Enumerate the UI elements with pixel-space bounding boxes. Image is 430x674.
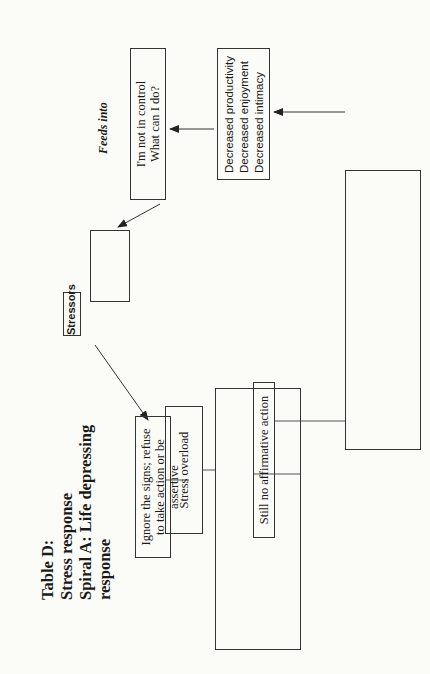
stressors-label-box: Stressors: [63, 292, 81, 336]
not-in-control-line-1: I'm not in control: [134, 49, 148, 199]
long-term-box: [345, 170, 421, 450]
stressors-label: Stressors: [65, 284, 77, 335]
ignore-signs-line-1: Ignore the signs; refuse: [139, 417, 153, 557]
rotated-diagram-canvas: Table D: Stress response Spiral A: Life …: [0, 0, 430, 674]
still-no-action-box: Still no affirmative action: [253, 382, 275, 538]
stressors-box: [90, 230, 130, 302]
still-no-action-label: Still no affirmative action: [257, 396, 271, 525]
title-line-2: Stress response: [57, 425, 76, 600]
arrow-stressors-to-ignore: [95, 345, 148, 420]
diagram-title: Table D: Stress response Spiral A: Life …: [38, 425, 114, 600]
not-in-control-box: I'm not in control What can I do?: [130, 48, 166, 200]
document-page: Table D: Stress response Spiral A: Life …: [0, 0, 430, 674]
decreased-item: Decreased productivity: [222, 49, 237, 173]
title-line-4: response: [95, 425, 114, 600]
decreased-item: Decreased enjoyment: [237, 49, 252, 173]
title-line-3: Spiral A: Life depressing: [76, 425, 95, 600]
decreased-box: Decreased productivity Decreased enjoyme…: [217, 48, 270, 180]
stress-overload-box: Stress overload: [165, 406, 203, 534]
arrow-feeds-into: [118, 204, 160, 227]
decreased-item: Decreased intimacy: [252, 49, 267, 173]
not-in-control-line-2: What can I do?: [148, 49, 162, 199]
stress-overload-label: Stress overload: [177, 432, 191, 509]
feeds-into-label: Feeds into: [96, 102, 111, 154]
title-line-1: Table D:: [38, 425, 57, 600]
